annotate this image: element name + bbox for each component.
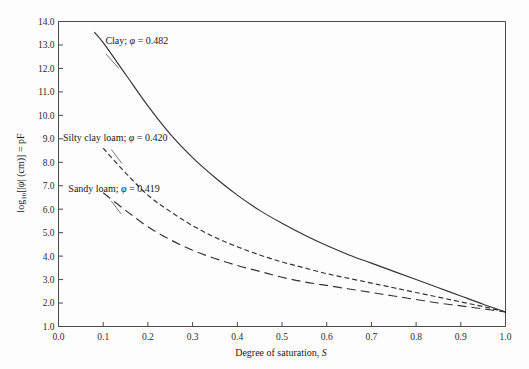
y-tick-label: 4.0 xyxy=(43,252,55,262)
x-tick-label: 0.7 xyxy=(365,332,377,342)
y-tick-label: 3.0 xyxy=(43,275,55,285)
y-tick-label: 13.0 xyxy=(38,40,55,50)
soil-water-retention-chart: 0.00.10.20.30.40.50.60.70.80.91.0 1.02.0… xyxy=(0,0,529,369)
x-tick-label: 0.8 xyxy=(410,332,422,342)
clay-annotation: Clay; φ = 0.482 xyxy=(105,35,168,46)
y-tick-label: 2.0 xyxy=(43,298,55,308)
silty-clay-loam-annotation: Silty clay loam; φ = 0.420 xyxy=(63,132,168,143)
y-tick-label: 9.0 xyxy=(43,134,55,144)
y-tick-label: 14.0 xyxy=(38,17,55,27)
sandy-loam-annotation: Sandy loam; φ = 0.419 xyxy=(68,183,159,194)
y-tick-label: 11.0 xyxy=(38,87,55,97)
x-tick-label: 0.2 xyxy=(142,332,154,342)
x-axis-title: Degree of saturation, S xyxy=(235,347,327,358)
x-tick-label: 0.6 xyxy=(321,332,333,342)
figure-container: 0.00.10.20.30.40.50.60.70.80.91.0 1.02.0… xyxy=(0,0,529,369)
y-tick-label: 5.0 xyxy=(43,228,55,238)
x-tick-label: 0.9 xyxy=(455,332,467,342)
y-tick-label: 1.0 xyxy=(43,322,55,332)
x-tick-label: 0.5 xyxy=(276,332,288,342)
x-tick-label: 0.1 xyxy=(97,332,109,342)
x-tick-label: 0.0 xyxy=(53,332,65,342)
y-tick-label: 6.0 xyxy=(43,205,55,215)
y-tick-label: 12.0 xyxy=(38,64,55,74)
y-tick-label: 7.0 xyxy=(43,181,55,191)
x-tick-label: 1.0 xyxy=(500,332,512,342)
y-tick-label: 10.0 xyxy=(38,111,55,121)
x-tick-label: 0.3 xyxy=(187,332,199,342)
x-tick-label: 0.4 xyxy=(231,332,243,342)
y-tick-label: 8.0 xyxy=(43,158,55,168)
